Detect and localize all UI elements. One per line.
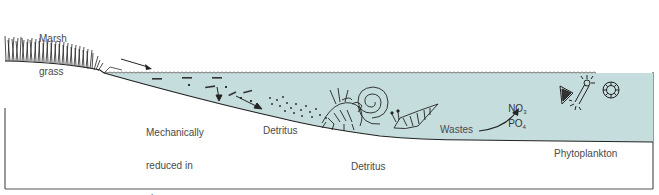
water-surface [104,72,596,73]
nutrients-label: NO3 PO4 [497,92,526,144]
phosphate-subscript: 4 [523,124,526,130]
detritus-food-chain-diagram: Marsh grass Mechanically reduced in size… [0,0,659,195]
marsh-grass-label: Marsh grass [39,11,67,99]
mechanical-label-line3: size [146,193,204,195]
nitrate-label: NO [508,103,523,114]
detritus-feeders-label: Detritus feeders (crabs, snails) [351,139,413,195]
marsh-grass-label-line2: grass [39,66,67,77]
nitrate-subscript: 3 [523,109,526,115]
mechanical-label-line2: reduced in [146,160,204,171]
detritus-label: Detritus [263,125,297,136]
wastes-label: Wastes [440,124,473,135]
diagram-canvas [0,0,659,195]
mechanical-label-line1: Mechanically [146,127,204,138]
mechanically-reduced-label: Mechanically reduced in size [146,105,204,195]
phytoplankton-label: Phytoplankton [554,148,617,159]
phosphate-label: PO [508,118,522,129]
drift-arrow [104,59,152,73]
feeders-label-line2: feeders [351,194,413,195]
marsh-grass-label-line1: Marsh [39,33,67,44]
feeders-label-line1: Detritus [351,161,413,172]
